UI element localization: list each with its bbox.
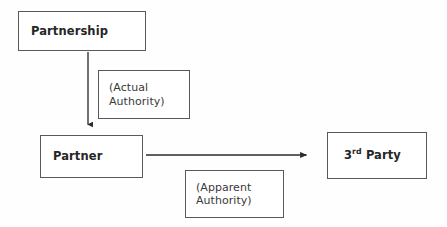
node-actual-authority[interactable]: (Actual Authority) bbox=[98, 70, 190, 119]
third-party-ordinal-suffix: rd bbox=[352, 148, 362, 157]
node-apparent-authority[interactable]: (Apparent Authority) bbox=[185, 170, 284, 218]
node-partnership[interactable]: Partnership bbox=[18, 11, 146, 51]
node-actual-authority-label: (Actual Authority) bbox=[109, 81, 165, 108]
third-party-noun: Party bbox=[366, 148, 401, 162]
node-partner[interactable]: Partner bbox=[40, 135, 143, 178]
node-partner-label: Partner bbox=[53, 149, 102, 163]
node-apparent-authority-label: (Apparent Authority) bbox=[196, 181, 252, 208]
node-third-party-label: 3rd Party bbox=[344, 148, 401, 162]
third-party-number: 3 bbox=[344, 148, 352, 162]
diagram-canvas: Partnership (Actual Authority) Partner 3… bbox=[0, 0, 447, 227]
node-partnership-label: Partnership bbox=[31, 24, 108, 38]
node-third-party[interactable]: 3rd Party bbox=[327, 132, 427, 179]
